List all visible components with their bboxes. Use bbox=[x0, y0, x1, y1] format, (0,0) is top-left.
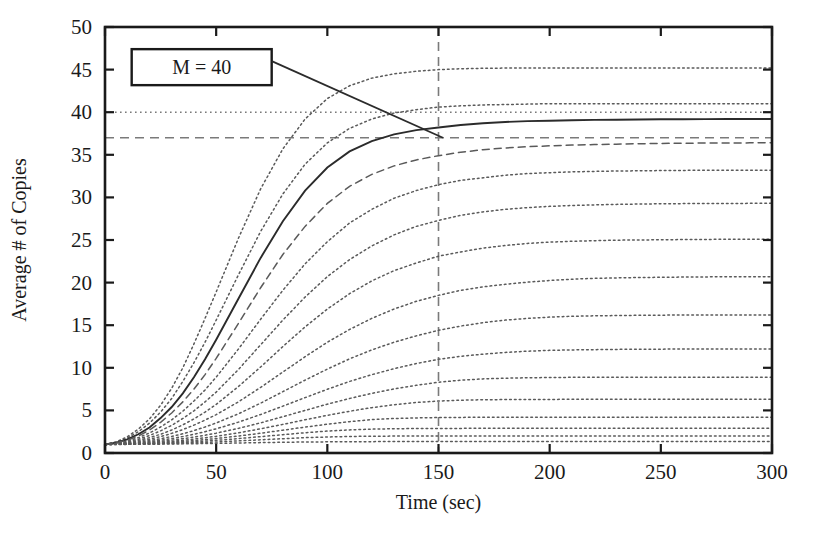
chart-series-curve-4 bbox=[105, 143, 772, 445]
y-tick-label: 5 bbox=[82, 398, 93, 422]
annotation-label: M = 40 bbox=[172, 56, 231, 78]
annotation-m-value: M = 40 bbox=[132, 49, 443, 138]
y-tick-label: 15 bbox=[71, 313, 92, 337]
x-tick-label: 150 bbox=[423, 460, 455, 484]
y-tick-label: 25 bbox=[71, 228, 92, 252]
x-tick-label: 100 bbox=[312, 460, 344, 484]
y-tick-label: 20 bbox=[71, 271, 92, 295]
x-tick-label: 200 bbox=[534, 460, 566, 484]
y-tick-label: 35 bbox=[71, 143, 92, 167]
annotation-leader-line bbox=[272, 61, 443, 138]
chart-figure: 05101520253035404550050100150200250300Ti… bbox=[0, 0, 814, 538]
x-axis-title: Time (sec) bbox=[396, 491, 481, 514]
y-tick-label: 10 bbox=[71, 356, 92, 380]
x-tick-label: 300 bbox=[756, 460, 788, 484]
x-tick-label: 250 bbox=[645, 460, 677, 484]
chart-canvas: 05101520253035404550050100150200250300Ti… bbox=[0, 0, 814, 538]
y-tick-label: 45 bbox=[71, 58, 92, 82]
y-axis-title: Average # of Copies bbox=[8, 158, 31, 322]
y-tick-label: 40 bbox=[71, 100, 92, 124]
y-tick-label: 30 bbox=[71, 185, 92, 209]
y-tick-label: 0 bbox=[82, 441, 93, 465]
y-tick-label: 50 bbox=[71, 15, 92, 39]
x-tick-label: 0 bbox=[100, 460, 111, 484]
x-tick-label: 50 bbox=[206, 460, 227, 484]
